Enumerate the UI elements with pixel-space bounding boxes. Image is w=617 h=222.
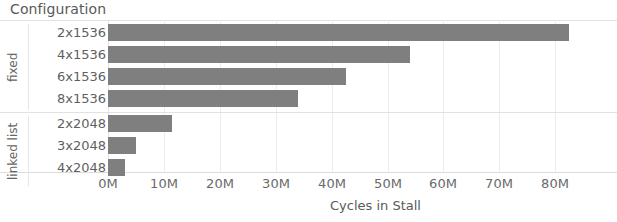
bar-chart: Configuration 2x15364x15366x15368x15362x…: [0, 0, 617, 222]
bar: [108, 90, 298, 107]
bar-row: 2x2048: [0, 113, 617, 135]
x-axis-title-text: Cycles in Stall: [330, 198, 421, 213]
plot-area: 2x15364x15366x15368x15362x20483x20484x20…: [0, 20, 617, 172]
bar-row: 4x1536: [0, 44, 617, 66]
bar-row: 8x1536: [0, 88, 617, 110]
group-separator: [28, 116, 29, 186]
group-separator: [28, 24, 29, 110]
bar-row: 4x2048: [0, 157, 617, 179]
bar: [108, 24, 569, 41]
bar: [108, 46, 410, 63]
group-label-fixed: fixed: [6, 24, 24, 110]
bar-row: 3x2048: [0, 135, 617, 157]
bar: [108, 137, 136, 154]
bar-row: 6x1536: [0, 66, 617, 88]
group-label-linked-list: linked list: [6, 116, 24, 186]
axis-header-configuration: Configuration: [10, 1, 106, 17]
bar-row: 2x1536: [0, 22, 617, 44]
bar: [108, 68, 346, 85]
bar: [108, 159, 125, 176]
group-divider: [0, 112, 617, 113]
x-axis-title: Cycles in Stall: [0, 198, 617, 213]
bar: [108, 115, 172, 132]
